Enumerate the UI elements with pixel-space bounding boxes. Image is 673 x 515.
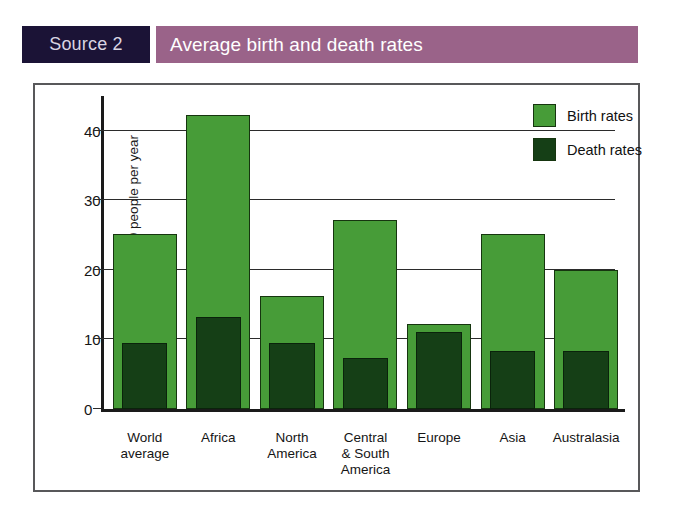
bar-death-rate[interactable] bbox=[269, 343, 314, 409]
x-axis-label: Africa bbox=[182, 430, 256, 446]
y-tick-mark-20 bbox=[93, 269, 101, 270]
x-axis-label: Worldaverage bbox=[108, 430, 182, 462]
x-axis-label-line: & South bbox=[329, 446, 403, 462]
bar-death-rate[interactable] bbox=[563, 351, 608, 409]
legend-swatch bbox=[533, 104, 556, 127]
y-tick-label-30: 30 bbox=[84, 192, 89, 209]
legend-item: Birth rates bbox=[533, 104, 673, 127]
x-axis-label-line: Africa bbox=[182, 430, 256, 446]
y-axis-line bbox=[101, 96, 104, 412]
x-axis-label: Australasia bbox=[549, 430, 623, 446]
x-axis-label-line: Australasia bbox=[549, 430, 623, 446]
source-title-block: Average birth and death rates bbox=[156, 26, 638, 63]
x-axis-label-line: Asia bbox=[476, 430, 550, 446]
y-tick-mark-0 bbox=[93, 408, 101, 409]
legend-label: Birth rates bbox=[567, 108, 633, 124]
y-tick-mark-10 bbox=[93, 338, 101, 339]
chart-legend: Birth ratesDeath rates bbox=[533, 104, 673, 172]
bar-group bbox=[333, 220, 397, 409]
y-tick-mark-40 bbox=[93, 130, 101, 131]
bar-death-rate[interactable] bbox=[196, 317, 241, 410]
y-tick-label-10: 10 bbox=[84, 331, 89, 348]
x-axis-label-line: North bbox=[255, 430, 329, 446]
bar-death-rate[interactable] bbox=[490, 351, 535, 409]
bar-group bbox=[481, 234, 545, 409]
gridline-30 bbox=[101, 199, 615, 200]
x-axis-line bbox=[101, 409, 625, 412]
bar-death-rate[interactable] bbox=[122, 343, 167, 409]
x-axis-label-line: Central bbox=[329, 430, 403, 446]
bar-death-rate[interactable] bbox=[343, 358, 388, 409]
x-axis-label-line: World bbox=[108, 430, 182, 446]
bar-group bbox=[113, 234, 177, 409]
plot-area: 010203040 WorldaverageAfricaNorthAmerica… bbox=[101, 96, 625, 412]
legend-item: Death rates bbox=[533, 138, 673, 161]
source-number-block: Source 2 bbox=[22, 26, 150, 63]
y-tick-label-20: 20 bbox=[84, 261, 89, 278]
source-label: Source 2 bbox=[49, 34, 123, 55]
legend-swatch bbox=[533, 138, 556, 161]
x-axis-label-line: America bbox=[255, 446, 329, 462]
y-tick-label-0: 0 bbox=[84, 401, 89, 418]
y-tick-mark-30 bbox=[93, 199, 101, 200]
y-tick-label-40: 40 bbox=[84, 122, 89, 139]
x-axis-label-line: Europe bbox=[402, 430, 476, 446]
chart-container: per 1000 people per year 010203040 World… bbox=[33, 83, 640, 492]
source-header-bar: Source 2 Average birth and death rates bbox=[22, 26, 638, 63]
bar-group bbox=[260, 296, 324, 409]
x-axis-label: NorthAmerica bbox=[255, 430, 329, 462]
x-axis-label-line: average bbox=[108, 446, 182, 462]
bar-group bbox=[186, 115, 250, 409]
x-axis-label: Central& SouthAmerica bbox=[329, 430, 403, 478]
bar-death-rate[interactable] bbox=[416, 332, 461, 409]
x-axis-label: Asia bbox=[476, 430, 550, 446]
x-axis-label: Europe bbox=[402, 430, 476, 446]
bar-group bbox=[554, 270, 618, 409]
x-axis-label-line: America bbox=[329, 462, 403, 478]
bar-group bbox=[407, 324, 471, 409]
legend-label: Death rates bbox=[567, 142, 642, 158]
page-title: Average birth and death rates bbox=[170, 34, 423, 56]
